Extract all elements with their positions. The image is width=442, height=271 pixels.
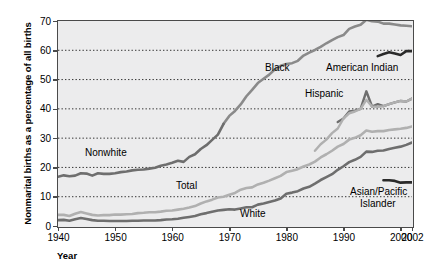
asian-pacific-label-2: Islander (360, 198, 396, 209)
x-tick-mark-1970 (229, 227, 231, 231)
y-tick-label-30: 30 (15, 134, 51, 144)
x-tick-mark-2000 (400, 227, 402, 231)
x-tick-mark-1980 (286, 227, 288, 231)
x-tick-label-1980: 1980 (264, 233, 310, 243)
y-axis-title: Nonmarital births as a percentage of all… (22, 9, 33, 239)
y-tick-label-20: 20 (15, 163, 51, 173)
x-tick-label-1990: 1990 (321, 233, 367, 243)
x-tick-mark-1950 (115, 227, 117, 231)
x-tick-label-2002: 2002 (390, 233, 436, 243)
asian-pacific-label-1: Asian/Pacific (350, 186, 407, 197)
y-tick-label-0: 0 (15, 222, 51, 232)
series-line-nonwhite (58, 124, 224, 177)
x-tick-label-1950: 1950 (93, 233, 139, 243)
x-tick-mark-2002 (412, 227, 414, 231)
x-tick-label-1970: 1970 (207, 233, 253, 243)
nonwhite-label: Nonwhite (85, 147, 127, 158)
hispanic-label: Hispanic (305, 88, 343, 99)
series-line-american-indian (378, 51, 412, 56)
y-tick-label-50: 50 (15, 75, 51, 85)
y-tick-label-60: 60 (15, 46, 51, 56)
white-label: White (240, 208, 266, 219)
x-tick-mark-1960 (172, 227, 174, 231)
series-line-hispanic-lower (315, 99, 412, 151)
y-tick-label-10: 10 (15, 192, 51, 202)
x-tick-mark-1990 (343, 227, 345, 231)
american-indian-label: American Indian (326, 62, 398, 73)
x-axis-title: Year (57, 250, 77, 261)
x-tick-mark-1940 (58, 227, 60, 231)
black-label: Black (265, 62, 289, 73)
series-line-asian-pacific-islander (383, 180, 412, 182)
chart-root: Nonmarital births as a percentage of all… (0, 0, 442, 271)
y-tick-label-70: 70 (15, 17, 51, 27)
y-tick-label-40: 40 (15, 104, 51, 114)
total-label: Total (176, 180, 197, 191)
series-line-total (58, 126, 412, 216)
x-tick-label-1940: 1940 (36, 233, 82, 243)
x-tick-label-1960: 1960 (150, 233, 196, 243)
